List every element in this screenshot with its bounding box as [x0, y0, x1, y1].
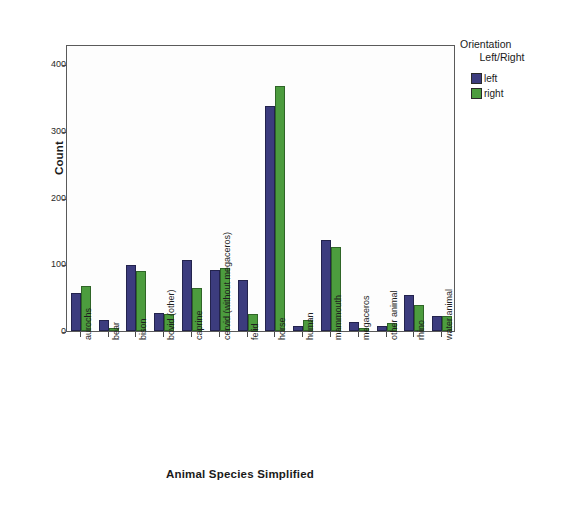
x-category-label: megaceros	[362, 295, 371, 340]
bar-left-horse	[265, 106, 275, 331]
bar-left-rhino	[404, 295, 414, 331]
legend-title-line2: Left/Right	[460, 51, 544, 64]
bar-left-aurochs	[71, 293, 81, 331]
bar-chart: Count 0100200300400 aurochsbearbisonbovi…	[0, 0, 561, 510]
x-category-label: mammouth	[334, 295, 343, 340]
bars-layer	[67, 46, 454, 331]
x-tick-mark	[441, 332, 442, 337]
x-tick-mark	[358, 332, 359, 337]
y-axis-ticks: 0100200300400	[24, 0, 66, 510]
bar-left-caprine	[182, 260, 192, 331]
x-tick-mark	[163, 332, 164, 337]
x-tick-mark	[219, 332, 220, 337]
x-tick-mark	[135, 332, 136, 337]
x-category-label: caprine	[195, 310, 204, 340]
y-tick-label: 200	[32, 194, 66, 203]
bar-left-water-animal	[432, 316, 442, 331]
plot-area	[66, 45, 455, 332]
legend-swatch-left	[471, 73, 482, 84]
x-category-label: human	[306, 312, 315, 340]
bar-left-felid	[238, 280, 248, 331]
x-tick-mark	[330, 332, 331, 337]
legend-label: left	[484, 73, 497, 84]
legend-swatch-right	[471, 88, 482, 99]
x-tick-mark	[302, 332, 303, 337]
x-category-label: cervid (without megaceros)	[223, 232, 232, 340]
bar-left-bison	[126, 265, 136, 331]
x-category-label: other animal	[390, 290, 399, 340]
bar-left-mammouth	[321, 240, 331, 331]
legend: Orientation Left/Right leftright	[460, 38, 560, 103]
y-tick-mark	[62, 332, 66, 333]
x-axis-title: Animal Species Simplified	[0, 468, 480, 480]
x-tick-mark	[191, 332, 192, 337]
legend-items: leftright	[460, 73, 560, 99]
bar-left-human	[293, 326, 303, 331]
legend-item-right: right	[471, 88, 560, 99]
x-category-label: horse	[278, 317, 287, 340]
y-tick-label: 100	[32, 260, 66, 269]
x-tick-mark	[386, 332, 387, 337]
x-tick-mark	[247, 332, 248, 337]
bar-left-bear	[99, 320, 109, 331]
x-tick-mark	[80, 332, 81, 337]
bar-right-horse	[275, 86, 285, 331]
x-category-label: bovid (other)	[167, 289, 176, 340]
bar-left-bovid-other-	[154, 313, 164, 331]
bar-left-other-animal	[377, 326, 387, 331]
bar-left-megaceros	[349, 322, 359, 331]
x-category-label: rhino	[417, 320, 426, 340]
x-category-label: bear	[112, 322, 121, 340]
x-tick-mark	[108, 332, 109, 337]
legend-title-line1: Orientation	[460, 38, 560, 51]
x-category-label: water animal	[445, 289, 454, 340]
bar-left-cervid-without-megaceros-	[210, 270, 220, 331]
x-tick-mark	[413, 332, 414, 337]
x-tick-mark	[274, 332, 275, 337]
y-tick-label: 300	[32, 127, 66, 136]
y-tick-label: 400	[32, 60, 66, 69]
y-tick-label: 0	[32, 327, 66, 336]
x-category-label: bison	[139, 318, 148, 340]
x-category-label: aurochs	[84, 308, 93, 340]
x-category-label: felid	[251, 323, 260, 340]
legend-label: right	[484, 88, 503, 99]
legend-item-left: left	[471, 73, 560, 84]
